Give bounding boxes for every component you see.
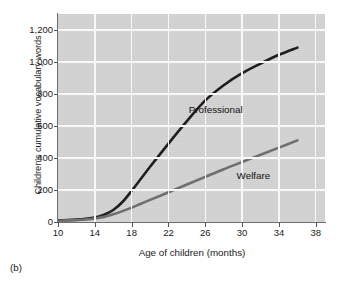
gridline-horizontal — [58, 189, 325, 190]
gridline-vertical — [241, 14, 242, 222]
x-axis-title: Age of children (months) — [58, 247, 326, 258]
y-axis-tick-mark — [54, 94, 58, 95]
y-axis-tick-label: 200 — [21, 185, 53, 195]
x-axis-tick-label: 14 — [82, 228, 108, 238]
x-axis-tick-mark — [58, 222, 59, 227]
gridline-horizontal — [58, 157, 325, 158]
gridline-vertical — [205, 14, 206, 222]
x-axis-tick-label: 18 — [119, 228, 145, 238]
x-axis-tick-label: 30 — [229, 228, 255, 238]
y-axis-tick-label: 800 — [21, 89, 53, 99]
series-curves — [58, 14, 325, 222]
gridline-horizontal — [58, 125, 325, 126]
x-axis-tick-label: 10 — [45, 228, 71, 238]
x-axis-tick-label: 26 — [192, 228, 218, 238]
x-axis-tick-mark — [316, 222, 317, 227]
y-axis-tick-label: 1,000 — [21, 57, 53, 67]
x-axis-tick-label: 34 — [266, 228, 292, 238]
y-axis-tick-label: 1,200 — [21, 25, 53, 35]
y-axis-tick-mark — [54, 190, 58, 191]
gridline-horizontal — [58, 61, 325, 62]
y-axis-tick-label: 0 — [21, 217, 53, 227]
series-label-professional: Professional — [189, 104, 243, 115]
x-axis-tick-label: 22 — [155, 228, 181, 238]
x-axis-tick-mark — [168, 222, 169, 227]
figure-panel: Children's cumulative vocabulary words 0… — [0, 0, 339, 282]
x-axis-tick-label: 38 — [303, 228, 329, 238]
gridline-vertical — [131, 14, 132, 222]
x-axis-tick-mark — [205, 222, 206, 227]
figure-caption: (b) — [10, 262, 22, 273]
x-axis-tick-mark — [95, 222, 96, 227]
x-axis-tick-mark — [132, 222, 133, 227]
series-label-welfare: Welfare — [237, 170, 271, 181]
y-axis-tick-labels: 02004006008001,0001,200 — [20, 0, 53, 282]
y-axis-tick-label: 600 — [21, 121, 53, 131]
x-axis-tick-mark — [242, 222, 243, 227]
gridline-vertical — [315, 14, 316, 222]
gridline-horizontal — [58, 29, 325, 30]
gridline-vertical — [168, 14, 169, 222]
gridline-vertical — [278, 14, 279, 222]
y-axis-tick-mark — [54, 158, 58, 159]
y-axis-tick-label: 400 — [21, 153, 53, 163]
plot-area — [58, 14, 325, 222]
gridline-horizontal — [58, 93, 325, 94]
y-axis-tick-mark — [54, 62, 58, 63]
y-axis-tick-mark — [54, 30, 58, 31]
x-axis-tick-mark — [279, 222, 280, 227]
y-axis-tick-mark — [54, 126, 58, 127]
gridline-vertical — [94, 14, 95, 222]
